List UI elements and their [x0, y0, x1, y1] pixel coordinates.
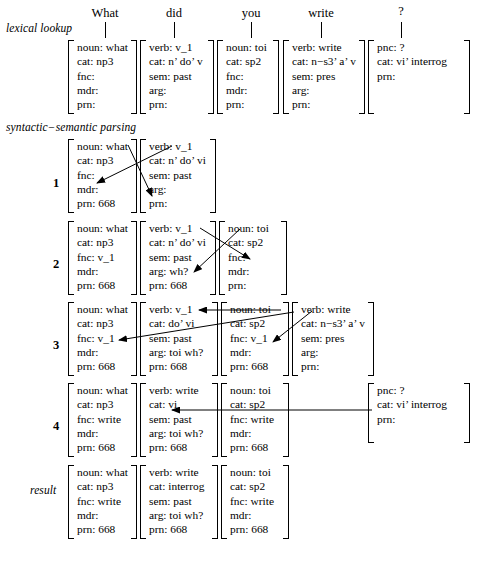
feature-line: noun: what	[77, 302, 131, 316]
bracket-left-icon	[221, 465, 227, 539]
feature-line: mdr:	[77, 264, 131, 278]
feature-line: prn: 668	[77, 440, 131, 454]
feature-line: prn: 668	[77, 522, 131, 536]
feature-line: noun: toi	[230, 465, 283, 479]
bracket-right-icon	[208, 40, 214, 114]
feature-line: cat: np3	[77, 397, 131, 411]
feature-list: noun: toicat: sp2fnc:mdr:prn:	[217, 40, 279, 111]
feature-line: cat: n−s3’ a’ v	[301, 316, 368, 330]
bracket-right-icon	[131, 465, 137, 539]
bracket-left-icon	[68, 465, 74, 539]
feature-line: cat: np3	[77, 153, 131, 167]
bracket-right-icon	[464, 383, 470, 443]
feature-line: prn: 668	[77, 196, 131, 210]
feature-line: verb: v_1	[149, 221, 210, 235]
feature-line: arg: toi wh?	[149, 345, 212, 359]
feature-line: noun: toi	[230, 302, 283, 316]
stage-label-lexical-lookup: lexical lookup	[6, 22, 72, 34]
feature-line: verb: write	[292, 40, 359, 54]
feature-line: cat: sp2	[230, 316, 283, 330]
feature-line: mdr:	[77, 426, 131, 440]
feature-line: fnc: v_1	[77, 331, 131, 345]
bracket-left-icon	[219, 221, 225, 295]
feature-list: noun: whatcat: np3fnc: writemdr:prn: 668	[68, 383, 137, 454]
bracket-right-icon	[359, 40, 365, 114]
bracket-left-icon	[368, 40, 374, 114]
feature-list: verb: v_1cat: n’ do’ visem: pastarg: wh?…	[140, 221, 216, 292]
feature-line: fnc:	[77, 168, 131, 182]
row-number-4: 4	[53, 419, 59, 434]
surface-word-you: you	[242, 6, 261, 21]
feature-line: cat: vi’ interrog	[377, 397, 464, 411]
row3-block-write: verb: writecat: n−s3’ a’ vsem: presarg:p…	[292, 302, 374, 376]
feature-line: cat: vi	[149, 397, 212, 411]
feature-line: arg:	[292, 83, 359, 97]
feature-line: sem: past	[149, 250, 210, 264]
feature-line: prn:	[226, 97, 273, 111]
bracket-left-icon	[221, 302, 227, 376]
feature-line: prn: 668	[149, 278, 210, 292]
feature-line: verb: write	[301, 302, 368, 316]
feature-list: pnc: ?cat: vi’ interrogprn:	[368, 40, 470, 83]
bracket-right-icon	[273, 40, 279, 114]
feature-line: prn: 668	[149, 440, 212, 454]
feature-line: pnc: ?	[377, 40, 464, 54]
row2-block-you: noun: toicat: sp2fnc:mdr:prn:	[219, 221, 287, 295]
row4-block-write: verb: writecat: visem: pastarg: toi wh?p…	[140, 383, 218, 457]
feature-line: verb: write	[149, 383, 212, 397]
feature-line: arg:	[149, 182, 210, 196]
feature-list: noun: whatcat: np3fnc: writemdr:prn: 668	[68, 465, 137, 536]
bracket-right-icon	[212, 302, 218, 376]
feature-line: mdr:	[230, 345, 283, 359]
feature-line: sem: past	[149, 412, 212, 426]
feature-line: prn:	[377, 69, 464, 83]
feature-line: arg: wh?	[149, 264, 210, 278]
feature-line: prn: 668	[230, 440, 283, 454]
word-stem-what	[105, 22, 106, 38]
feature-line: prn: 668	[77, 359, 131, 373]
feature-list: noun: toicat: sp2fnc: writemdr:prn: 668	[221, 383, 289, 454]
feature-list: verb: writecat: visem: pastarg: toi wh?p…	[140, 383, 218, 454]
feature-line: cat: np3	[77, 479, 131, 493]
feature-list: noun: toicat: sp2fnc: writemdr:prn: 668	[221, 465, 289, 536]
feature-line: sem: pres	[292, 69, 359, 83]
row4-block-you: noun: toicat: sp2fnc: writemdr:prn: 668	[221, 383, 289, 457]
surface-word-what: What	[91, 6, 118, 21]
lexical-block-what: noun: whatcat: np3fnc:mdr:prn:	[68, 40, 137, 114]
bracket-right-icon	[368, 302, 374, 376]
lexical-block-question-mark: pnc: ?cat: vi’ interrogprn:	[368, 40, 470, 114]
feature-line: prn:	[377, 412, 464, 426]
feature-line: sem: past	[149, 494, 212, 508]
bracket-left-icon	[68, 302, 74, 376]
bracket-right-icon	[131, 40, 137, 114]
feature-line: noun: what	[77, 40, 131, 54]
feature-line: arg: toi wh?	[149, 426, 212, 440]
bracket-left-icon	[140, 302, 146, 376]
feature-list: noun: whatcat: np3fnc: v_1mdr:prn: 668	[68, 302, 137, 373]
bracket-left-icon	[140, 383, 146, 457]
feature-line: fnc: write	[77, 412, 131, 426]
feature-line: cat: sp2	[230, 479, 283, 493]
feature-line: prn: 668	[230, 522, 283, 536]
feature-line: prn: 668	[149, 522, 212, 536]
feature-line: cat: sp2	[226, 54, 273, 68]
row2-block-did: verb: v_1cat: n’ do’ visem: pastarg: wh?…	[140, 221, 216, 295]
result-block-you: noun: toicat: sp2fnc: writemdr:prn: 668	[221, 465, 289, 539]
feature-line: prn: 668	[149, 359, 212, 373]
feature-line: cat: np3	[77, 316, 131, 330]
feature-line: prn:	[149, 196, 210, 210]
bracket-left-icon	[68, 383, 74, 457]
feature-line: mdr:	[77, 182, 131, 196]
feature-list: noun: toicat: sp2fnc: v_1mdr:prn: 668	[221, 302, 289, 373]
feature-line: prn:	[228, 278, 281, 292]
feature-list: pnc: ?cat: vi’ interrogprn:	[368, 383, 470, 426]
row4-block-question-mark: pnc: ?cat: vi’ interrogprn:	[368, 383, 470, 443]
feature-line: prn: 668	[77, 278, 131, 292]
bracket-right-icon	[464, 40, 470, 114]
bracket-right-icon	[210, 139, 216, 213]
bracket-left-icon	[140, 221, 146, 295]
feature-line: arg: toi wh?	[149, 508, 212, 522]
feature-line: mdr:	[77, 83, 131, 97]
feature-line: arg:	[149, 83, 208, 97]
row3-block-you: noun: toicat: sp2fnc: v_1mdr:prn: 668	[221, 302, 289, 376]
